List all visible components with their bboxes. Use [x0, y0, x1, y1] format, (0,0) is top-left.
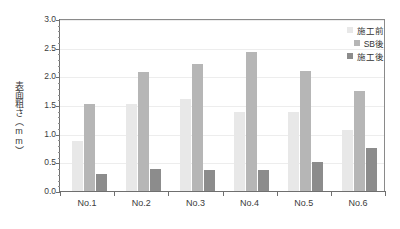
- bar: [342, 130, 353, 191]
- legend-item: SB後: [318, 36, 384, 49]
- x-axis-tick-label: No.1: [57, 198, 117, 208]
- bar: [192, 64, 203, 191]
- y-axis-tick-label: 1.5: [26, 100, 56, 110]
- bar-chart: 表面粗さ（mm） 施工前 SB後 施工後 0.00.51.01.52.02.53…: [0, 0, 400, 229]
- x-axis-tick-label: No.5: [274, 198, 334, 208]
- bar: [84, 104, 95, 191]
- x-axis-tick: [223, 191, 224, 196]
- bar-group: [168, 20, 222, 191]
- x-axis-tick: [60, 191, 61, 196]
- bar: [204, 170, 215, 191]
- bar: [72, 141, 83, 191]
- y-axis-tick-label: 2.0: [26, 71, 56, 81]
- bar: [126, 104, 137, 191]
- legend-swatch-icon: [354, 40, 360, 46]
- chart-legend: 施工前 SB後 施工後: [316, 21, 386, 64]
- x-axis-tick: [277, 191, 278, 196]
- bar-group: [114, 20, 168, 191]
- x-axis-tick: [114, 191, 115, 196]
- bar: [300, 71, 311, 191]
- y-axis-tick-label: 2.5: [26, 43, 56, 53]
- x-axis-tick: [168, 191, 169, 196]
- bar-group: [60, 20, 114, 191]
- legend-label: SB後: [364, 37, 384, 49]
- bar: [150, 169, 161, 191]
- legend-item: 施工後: [318, 49, 384, 62]
- bar: [354, 91, 365, 191]
- bar: [138, 72, 149, 191]
- legend-label: 施工前: [357, 24, 384, 36]
- y-axis-tick-label: 3.0: [26, 14, 56, 24]
- x-axis-tick: [385, 191, 386, 196]
- bar: [258, 170, 269, 191]
- x-axis-tick-label: No.2: [111, 198, 171, 208]
- y-axis-title: 表面粗さ（mm）: [11, 58, 27, 178]
- legend-swatch-icon: [347, 53, 353, 59]
- bar: [180, 99, 191, 191]
- legend-swatch-icon: [347, 27, 353, 33]
- bar: [366, 148, 377, 191]
- y-axis-tick-label: 0.5: [26, 157, 56, 167]
- bar: [96, 174, 107, 191]
- x-axis-tick: [331, 191, 332, 196]
- bar: [234, 112, 245, 191]
- y-axis-tick-label: 0.0: [26, 186, 56, 196]
- x-axis-tick-label: No.3: [165, 198, 225, 208]
- bar: [288, 112, 299, 191]
- x-axis-tick-label: No.6: [328, 198, 388, 208]
- legend-label: 施工後: [357, 50, 384, 62]
- bar: [246, 52, 257, 191]
- x-axis-tick-label: No.4: [220, 198, 280, 208]
- legend-item: 施工前: [318, 23, 384, 36]
- bar-group: [223, 20, 277, 191]
- y-axis-tick-label: 1.0: [26, 129, 56, 139]
- bar: [312, 162, 323, 191]
